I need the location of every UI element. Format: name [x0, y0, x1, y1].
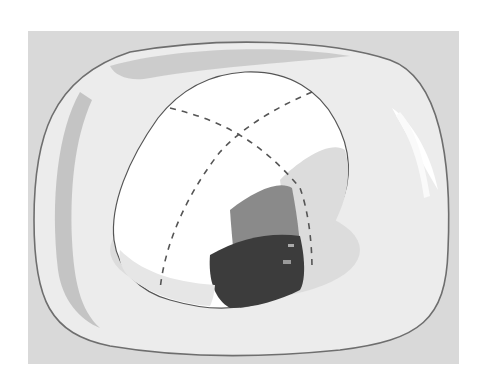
- figure-caption: [0, 380, 484, 388]
- cake-illustration: [0, 0, 484, 388]
